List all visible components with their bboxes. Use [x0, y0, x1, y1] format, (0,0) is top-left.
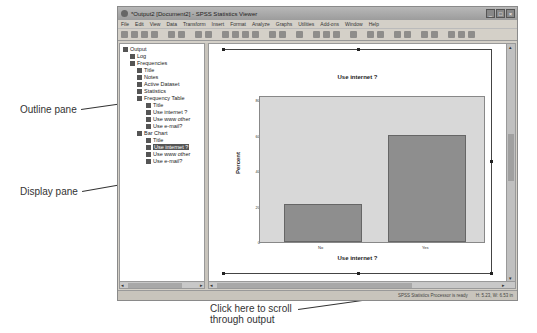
insert-text-icon[interactable] — [458, 31, 465, 38]
scroll-up-icon[interactable]: ▴ — [509, 44, 512, 50]
tree-item-ft-use-internet[interactable]: Use internet ? — [146, 109, 187, 115]
tree-item-bc-title[interactable]: Title — [146, 137, 163, 143]
resize-handle[interactable] — [222, 272, 225, 275]
menu-insert[interactable]: Insert — [212, 21, 225, 27]
show-icon[interactable] — [421, 31, 428, 38]
tree-item-bc-use-email[interactable]: Use e-mail? — [146, 158, 182, 164]
table-icon — [146, 124, 151, 129]
menu-graphs[interactable]: Graphs — [276, 21, 292, 27]
display-horizontal-scrollbar[interactable]: ◂ ▸ — [209, 281, 515, 288]
maximize-button[interactable]: □ — [496, 9, 505, 18]
x-axis-label: Use internet ? — [224, 255, 491, 261]
resize-handle[interactable] — [357, 48, 360, 51]
status-bar: SPSS Statistics Processor is ready H: 5.… — [118, 290, 517, 300]
menu-view[interactable]: View — [150, 21, 161, 27]
menu-analyze[interactable]: Analyze — [252, 21, 270, 27]
variables-icon[interactable] — [252, 31, 259, 38]
callout-scroll: Click here to scroll through output — [210, 303, 292, 325]
menu-help[interactable]: Help — [369, 21, 379, 27]
menu-data[interactable]: Data — [166, 21, 177, 27]
goto-case-icon[interactable] — [232, 31, 239, 38]
resize-handle[interactable] — [490, 160, 493, 163]
menu-window[interactable]: Window — [345, 21, 363, 27]
spell-check-icon[interactable] — [296, 31, 303, 38]
save-icon[interactable] — [131, 31, 138, 38]
display-vertical-scrollbar[interactable]: ▴ ▾ — [506, 44, 515, 281]
select-last-output-icon[interactable] — [323, 31, 330, 38]
use-sets-icon[interactable] — [269, 31, 276, 38]
scroll-right-icon[interactable]: ▸ — [200, 282, 203, 288]
outline-horizontal-scrollbar[interactable]: ◂ ▸ — [120, 281, 204, 288]
redo-icon[interactable] — [205, 31, 212, 38]
print-preview-icon[interactable] — [151, 31, 158, 38]
hide-icon[interactable] — [431, 31, 438, 38]
table-icon — [146, 117, 151, 122]
tree-item-bc-use-internet[interactable]: Use internet ? — [146, 144, 189, 150]
recall-dialog-icon[interactable] — [178, 31, 185, 38]
close-button[interactable]: × — [506, 9, 515, 18]
x-tick-yes: Yes — [422, 245, 429, 250]
tree-item-bar-chart[interactable]: Bar Chart — [137, 130, 168, 136]
tree-item-log[interactable]: Log — [130, 53, 146, 59]
print-icon[interactable] — [141, 31, 148, 38]
menu-format[interactable]: Format — [230, 21, 246, 27]
dataset-icon — [137, 82, 142, 87]
tree-item-statistics[interactable]: Statistics — [137, 88, 166, 94]
tree-item-ft-use-www[interactable]: Use www other — [146, 116, 190, 122]
app-icon — [121, 10, 128, 17]
menu-file[interactable]: File — [121, 21, 129, 27]
display-hscroll-thumb[interactable] — [217, 283, 412, 288]
expand-icon[interactable] — [394, 31, 401, 38]
chart-frame[interactable]: Use internet ? Percent 0 20 40 60 80 No … — [224, 49, 492, 274]
chart-icon — [146, 152, 151, 157]
display-vscroll-thumb[interactable] — [508, 134, 514, 181]
menu-bar: File Edit View Data Transform Insert For… — [118, 20, 517, 29]
tree-item-notes[interactable]: Notes — [137, 74, 158, 80]
tree-item-title[interactable]: Title — [137, 67, 154, 73]
tree-item-frequencies[interactable]: Frequencies — [130, 60, 167, 66]
scroll-right-icon[interactable]: ▸ — [502, 282, 505, 288]
export-icon[interactable] — [168, 31, 175, 38]
folder-icon — [137, 131, 142, 136]
menu-add-ons[interactable]: Add-ons — [320, 21, 339, 27]
open-icon[interactable] — [121, 31, 128, 38]
tree-item-output[interactable]: Output — [123, 46, 147, 52]
demote-icon[interactable] — [377, 31, 384, 38]
insert-heading-icon[interactable] — [350, 31, 357, 38]
insert-new-icon[interactable] — [468, 31, 475, 38]
menu-edit[interactable]: Edit — [135, 21, 144, 27]
plot-area — [259, 96, 485, 243]
resize-handle[interactable] — [222, 48, 225, 51]
scroll-left-icon[interactable]: ◂ — [121, 282, 124, 288]
create-edit-autoscript-icon[interactable] — [333, 31, 340, 38]
minimize-button[interactable]: _ — [486, 9, 495, 18]
resize-handle[interactable] — [490, 272, 493, 275]
menu-utilities[interactable]: Utilities — [298, 21, 314, 27]
undo-icon[interactable] — [195, 31, 202, 38]
window-title: *Output2 [Document2] - SPSS Statistics V… — [131, 11, 486, 17]
show-all-variables-icon[interactable] — [279, 31, 286, 38]
dimensions-status: H: 5.23, W: 6.53 in — [476, 293, 513, 298]
scroll-left-icon[interactable]: ◂ — [210, 282, 213, 288]
insert-title-icon[interactable] — [448, 31, 455, 38]
title-icon — [146, 103, 151, 108]
designate-window-icon[interactable] — [313, 31, 320, 38]
display-pane: Use internet ? Percent 0 20 40 60 80 No … — [208, 43, 516, 289]
tree-item-active-dataset[interactable]: Active Dataset — [137, 81, 179, 87]
menu-transform[interactable]: Transform — [183, 21, 206, 27]
collapse-icon[interactable] — [404, 31, 411, 38]
goto-data-icon[interactable] — [222, 31, 229, 38]
chart-icon — [146, 159, 151, 164]
toolbar — [118, 29, 517, 41]
resize-handle[interactable] — [357, 272, 360, 275]
goto-variable-icon[interactable] — [242, 31, 249, 38]
tree-item-bc-use-www[interactable]: Use www other — [146, 151, 190, 157]
tree-item-ft-use-email[interactable]: Use e-mail? — [146, 123, 182, 129]
outline-scroll-thumb[interactable] — [128, 283, 182, 288]
chart-icon — [146, 145, 151, 150]
tree-item-ft-title[interactable]: Title — [146, 102, 163, 108]
tree-item-frequency-table[interactable]: Frequency Table — [137, 95, 185, 101]
callout-display-pane: Display pane — [20, 186, 78, 197]
promote-icon[interactable] — [367, 31, 374, 38]
spss-viewer-window: *Output2 [Document2] - SPSS Statistics V… — [117, 6, 518, 301]
